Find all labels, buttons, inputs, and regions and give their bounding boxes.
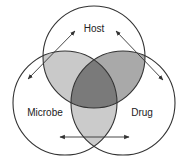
label-drug: Drug — [131, 107, 153, 118]
venn-diagram: Host Microbe Drug — [0, 0, 184, 167]
label-host: Host — [84, 23, 105, 34]
label-microbe: Microbe — [27, 107, 63, 118]
